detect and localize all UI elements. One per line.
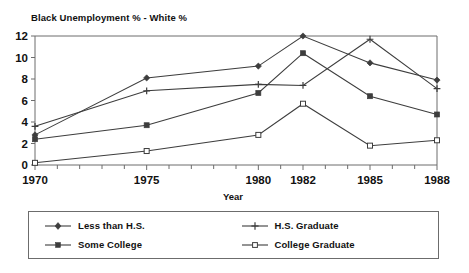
data-point-marker [301, 51, 306, 56]
data-point-marker [143, 87, 150, 94]
x-axis-tick-label: 1980 [246, 174, 272, 186]
data-point-marker [368, 94, 373, 99]
legend-label: College Graduate [275, 239, 355, 250]
legend-item-hs-graduate[interactable]: H.S. Graduate [242, 220, 439, 231]
legend-item-some-college[interactable]: Some College [45, 239, 242, 250]
x-axis-tick-label: 1970 [22, 174, 48, 186]
data-point-marker [367, 60, 373, 66]
data-point-marker [301, 101, 306, 106]
legend-label: Some College [78, 239, 142, 250]
chart-series [33, 101, 440, 165]
chart-series [32, 36, 441, 130]
y-axis-tick-label: 12 [15, 30, 28, 42]
data-point-marker [144, 75, 150, 81]
chart-legend: Less than H.S. H.S. Graduate Some Colleg… [28, 211, 439, 259]
x-axis-title: Year [223, 191, 243, 202]
data-point-marker [144, 149, 149, 154]
legend-swatch-diamond [45, 221, 71, 231]
y-axis-tick-label: 0 [22, 159, 28, 171]
legend-swatch-filled-square [45, 240, 71, 250]
y-axis-tick-label: 10 [15, 52, 28, 64]
series-line [35, 104, 437, 163]
x-axis-tick-label: 1982 [290, 174, 316, 186]
data-point-marker [435, 112, 440, 117]
data-point-marker [434, 77, 440, 83]
series-layer [32, 33, 441, 165]
data-point-marker [256, 132, 261, 137]
data-point-marker [255, 63, 261, 69]
tick-labels-layer: 024681012197019751980198219851988 [15, 30, 450, 186]
x-axis-tick-label: 1975 [134, 174, 160, 186]
legend-label: H.S. Graduate [275, 220, 339, 231]
legend-item-less-than-hs[interactable]: Less than H.S. [45, 220, 242, 231]
x-axis-tick-label: 1988 [424, 174, 450, 186]
y-axis-tick-label: 2 [22, 138, 28, 150]
x-axis-tick-label: 1985 [357, 174, 383, 186]
legend-item-college-graduate[interactable]: College Graduate [242, 239, 439, 250]
data-point-marker [300, 33, 306, 39]
series-line [35, 53, 437, 139]
data-point-marker [255, 81, 262, 88]
chart-figure: Black Unemployment % - White % 024681012… [0, 0, 469, 273]
legend-label: Less than H.S. [78, 220, 145, 231]
axes-layer [31, 36, 437, 170]
y-axis-tick-label: 6 [22, 95, 28, 107]
legend-swatch-plus [242, 221, 268, 231]
y-axis-tick-label: 8 [22, 73, 29, 85]
data-point-marker [33, 160, 38, 165]
plot-frame [35, 36, 437, 165]
legend-swatch-open-square [242, 240, 268, 250]
y-axis-tick-label: 4 [22, 116, 29, 128]
data-point-marker [256, 90, 261, 95]
data-point-marker [368, 143, 373, 148]
data-point-marker [33, 137, 38, 142]
data-point-marker [144, 123, 149, 128]
series-line [35, 39, 437, 126]
data-point-marker [435, 138, 440, 143]
data-point-marker [300, 82, 307, 89]
data-point-marker [32, 123, 39, 130]
chart-series [33, 51, 440, 142]
